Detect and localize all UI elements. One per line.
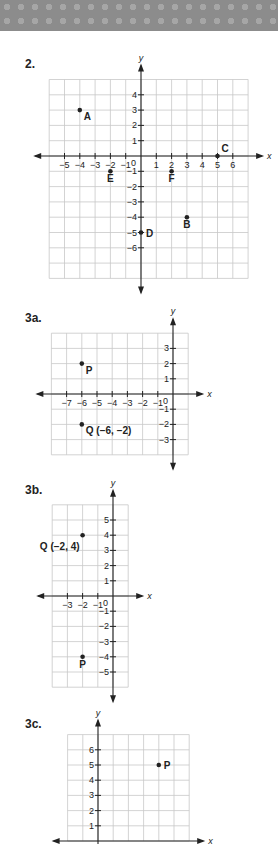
tick-labels: 654321xy <box>89 708 213 844</box>
arrow-left-icon <box>52 838 60 844</box>
point-p <box>157 763 162 768</box>
arrow-right-icon <box>197 838 205 844</box>
grid <box>68 735 190 841</box>
arrow-up-icon <box>95 719 101 727</box>
y-tick-label: 3 <box>89 790 94 800</box>
x-axis-label: x <box>207 836 213 844</box>
y-tick-label: 1 <box>89 821 94 831</box>
point-label-p: P <box>164 760 171 771</box>
coordinate-plane-problem-3c: 654321xyP <box>0 0 278 844</box>
y-tick-label: 2 <box>89 806 94 816</box>
y-tick-label: 5 <box>89 760 94 770</box>
y-axis-label: y <box>95 708 101 718</box>
y-tick-label: 6 <box>89 745 94 755</box>
y-tick-label: 4 <box>89 775 94 785</box>
